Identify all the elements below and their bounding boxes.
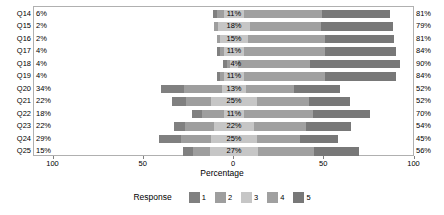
bar-segment-4 [250,22,320,31]
chart-row: Q146%11%81% [34,8,413,21]
bar-segment-4 [244,110,313,119]
bar-segment-5 [325,35,394,44]
chart-root: Q146%11%81%Q152%18%79%Q162%15%81%Q174%11… [0,0,444,215]
bar-segment-4 [244,47,325,56]
row-neutral-label: 11% [224,45,244,58]
bar-segment-4 [246,85,295,94]
bar-segment-4 [244,72,325,81]
legend-item-label: 3 [254,193,258,202]
bar-segment-5 [313,110,371,119]
legend-item[interactable]: 1 [189,192,206,203]
bar-segment-2 [217,10,224,19]
legend-swatch-icon [293,192,304,203]
chart-row: Q162%15%81% [34,33,413,46]
row-category-label: Q15 [17,20,31,33]
chart-row: Q194%11%84% [34,70,413,83]
row-category-label: Q17 [17,45,31,58]
legend: Response 12345 [0,189,444,205]
row-category-label: Q18 [17,58,31,71]
row-negative-label: 4% [36,58,47,71]
row-neutral-label: 18% [218,20,250,33]
legend-item-label: 4 [280,193,284,202]
row-category-label: Q22 [17,108,31,121]
bar-segment-4 [238,60,310,69]
bar-segment-5 [321,22,393,31]
bar-segment-2 [202,110,224,119]
bar-segment-5 [325,47,395,56]
chart-row: Q2122%25%52% [34,95,413,108]
legend-item[interactable]: 5 [293,192,310,203]
row-neutral-label: 4% [230,58,237,71]
row-neutral-label: 22% [214,120,254,133]
row-neutral-label: 15% [220,33,247,46]
row-negative-label: 18% [36,108,51,121]
bar-segment-4 [254,122,306,131]
bar-segment-1 [159,135,181,144]
legend-swatch-icon [241,192,252,203]
row-negative-label: 4% [36,45,47,58]
bar-segment-2 [193,147,209,156]
bar-segment-4 [244,10,322,19]
row-category-label: Q24 [17,133,31,146]
x-axis-label: Percentage [0,168,444,178]
legend-item-label: 2 [228,193,232,202]
row-negative-label: 4% [36,70,47,83]
chart-row: Q152%18%79% [34,20,413,33]
bar-segment-5 [325,72,395,81]
bar-segment-4 [248,35,326,44]
bar-segment-5 [310,60,400,69]
bar-segment-1 [174,122,185,131]
bar-segment-2 [181,135,212,144]
bar-segment-4 [257,97,309,106]
chart-row: Q2322%22%54% [34,120,413,133]
row-neutral-label: 13% [222,83,245,96]
legend-item[interactable]: 4 [267,192,284,203]
bar-segment-1 [192,110,203,119]
bar-segment-5 [294,85,339,94]
bar-segment-4 [258,147,314,156]
chart-row: Q174%11%84% [34,45,413,58]
bar-segment-1 [161,85,184,94]
row-neutral-label: 11% [224,8,244,21]
legend-items: 12345 [189,192,311,203]
legend-swatch-icon [189,192,200,203]
row-neutral-label: 25% [211,133,256,146]
row-category-label: Q21 [17,95,31,108]
legend-item-label: 5 [306,193,310,202]
row-category-label: Q20 [17,83,31,96]
row-category-label: Q23 [17,120,31,133]
stacked-bar [192,110,371,119]
stacked-bar [172,97,351,106]
legend-swatch-icon [267,192,278,203]
bar-segment-4 [257,135,300,144]
legend-item[interactable]: 3 [241,192,258,203]
bar-segment-2 [186,97,211,106]
row-negative-label: 2% [36,20,47,33]
row-neutral-label: 11% [224,108,244,121]
legend-item[interactable]: 2 [215,192,232,203]
bar-segment-2 [184,85,222,94]
row-neutral-label: 25% [211,95,256,108]
stacked-bar [161,85,340,94]
chart-row: Q184%4%90% [34,58,413,71]
row-negative-label: 2% [36,33,47,46]
bar-segment-5 [314,147,359,156]
row-category-label: Q19 [17,70,31,83]
bar-segment-1 [172,97,186,106]
chart-row: Q2218%11%70% [34,108,413,121]
bar-segment-2 [185,122,214,131]
row-negative-label: 6% [36,8,47,21]
row-category-label: Q25 [17,145,31,158]
bar-segment-5 [300,135,338,144]
row-negative-label: 22% [36,95,51,108]
legend-item-label: 1 [202,193,206,202]
row-category-label: Q14 [17,8,31,21]
bar-segment-5 [309,97,351,106]
legend-title: Response [133,192,171,202]
bar-segment-5 [306,122,351,131]
row-negative-label: 22% [36,120,51,133]
stacked-bar [223,60,400,69]
bar-segment-5 [322,10,391,19]
row-negative-label: 29% [36,133,51,146]
stacked-bar [174,122,351,131]
